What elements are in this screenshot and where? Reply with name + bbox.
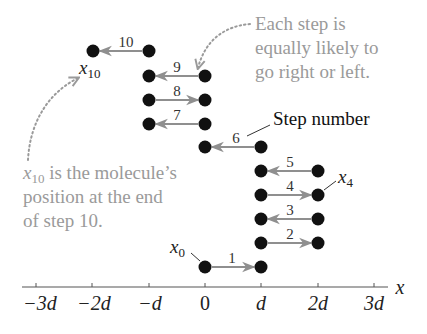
tick-label-negd: −d: [138, 292, 162, 314]
left-note-line-3: of step 10.: [23, 210, 103, 231]
tick-label-d: d: [256, 292, 267, 314]
right-note-pointer: [198, 24, 250, 68]
right-note-line-1: Each step is: [255, 13, 346, 34]
left-note-line-2: position at the end: [23, 186, 163, 207]
x0-leader: [191, 253, 200, 261]
axis-variable-label: x: [395, 276, 405, 298]
step-label-9: 9: [173, 59, 181, 75]
x-axis: [22, 283, 388, 287]
tick-label-3d: 3d: [363, 292, 385, 314]
step-number-leader: [247, 125, 270, 136]
step-label-8: 8: [173, 83, 181, 99]
x0-label: x0: [169, 236, 185, 260]
step-number-label: Step number: [273, 108, 370, 129]
tick-label-0: 0: [200, 292, 210, 314]
step-label-3: 3: [286, 202, 294, 218]
step-label-5: 5: [286, 154, 294, 170]
step-label-7: 7: [173, 107, 181, 123]
step-label-6: 6: [232, 130, 240, 146]
x4-leader: [324, 181, 336, 190]
tick-label-neg3d: −3d: [23, 292, 57, 314]
right-note-line-2: equally likely to: [255, 37, 378, 58]
step-label-2: 2: [286, 226, 294, 242]
random-walk-diagram: 1 2 3 4 5 6 7 8 9 10 −3d −2d −d 0 d 2d 3…: [0, 0, 427, 334]
left-note-pointer: [28, 78, 78, 160]
x10-label: x10: [78, 57, 100, 81]
x4-label: x4: [337, 166, 353, 190]
step-label-1: 1: [228, 250, 236, 266]
right-note-line-3: go right or left.: [255, 61, 370, 82]
left-note-line-1: x10 is the molecule’s: [22, 162, 177, 186]
step-label-4: 4: [286, 178, 294, 194]
step-arrows: [100, 51, 311, 267]
tick-label-2d: 2d: [308, 292, 329, 314]
tick-label-neg2d: −2d: [77, 292, 111, 314]
step-label-10: 10: [119, 34, 134, 50]
